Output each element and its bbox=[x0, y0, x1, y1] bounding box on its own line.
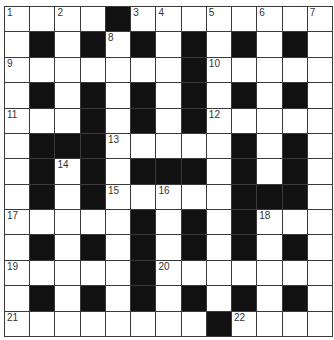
crossword-cell[interactable]: 21 bbox=[5, 312, 29, 336]
crossword-cell[interactable] bbox=[182, 185, 206, 209]
crossword-cell[interactable] bbox=[81, 210, 105, 234]
crossword-cell[interactable]: 18 bbox=[257, 210, 281, 234]
crossword-cell[interactable] bbox=[106, 83, 130, 107]
crossword-cell[interactable] bbox=[308, 185, 332, 209]
crossword-cell[interactable] bbox=[257, 109, 281, 133]
crossword-cell[interactable] bbox=[283, 210, 307, 234]
crossword-cell[interactable] bbox=[207, 83, 231, 107]
crossword-cell[interactable]: 10 bbox=[207, 58, 231, 82]
crossword-cell[interactable] bbox=[283, 312, 307, 336]
crossword-cell[interactable] bbox=[30, 109, 54, 133]
crossword-cell[interactable] bbox=[30, 312, 54, 336]
crossword-cell[interactable] bbox=[207, 185, 231, 209]
crossword-cell[interactable] bbox=[182, 312, 206, 336]
crossword-cell[interactable]: 7 bbox=[308, 7, 332, 31]
crossword-cell[interactable] bbox=[156, 134, 180, 158]
crossword-cell[interactable] bbox=[232, 58, 256, 82]
crossword-cell[interactable] bbox=[207, 286, 231, 310]
crossword-cell[interactable] bbox=[5, 83, 29, 107]
crossword-cell[interactable] bbox=[55, 32, 79, 56]
crossword-cell[interactable] bbox=[55, 312, 79, 336]
crossword-cell[interactable] bbox=[106, 235, 130, 259]
crossword-cell[interactable] bbox=[156, 235, 180, 259]
crossword-cell[interactable] bbox=[30, 261, 54, 285]
crossword-cell[interactable] bbox=[156, 32, 180, 56]
crossword-cell[interactable]: 19 bbox=[5, 261, 29, 285]
crossword-cell[interactable] bbox=[207, 210, 231, 234]
crossword-cell[interactable] bbox=[106, 312, 130, 336]
crossword-cell[interactable] bbox=[257, 134, 281, 158]
crossword-cell[interactable]: 3 bbox=[131, 7, 155, 31]
crossword-cell[interactable] bbox=[106, 261, 130, 285]
crossword-cell[interactable] bbox=[81, 58, 105, 82]
crossword-cell[interactable] bbox=[55, 261, 79, 285]
crossword-cell[interactable] bbox=[5, 286, 29, 310]
crossword-cell[interactable] bbox=[283, 58, 307, 82]
crossword-cell[interactable] bbox=[106, 109, 130, 133]
crossword-cell[interactable] bbox=[283, 261, 307, 285]
crossword-cell[interactable] bbox=[308, 58, 332, 82]
crossword-cell[interactable] bbox=[55, 235, 79, 259]
crossword-cell[interactable] bbox=[308, 83, 332, 107]
crossword-cell[interactable] bbox=[5, 235, 29, 259]
crossword-cell[interactable] bbox=[182, 261, 206, 285]
crossword-cell[interactable] bbox=[55, 83, 79, 107]
crossword-cell[interactable] bbox=[106, 159, 130, 183]
crossword-cell[interactable] bbox=[30, 210, 54, 234]
crossword-cell[interactable] bbox=[81, 7, 105, 31]
crossword-cell[interactable]: 11 bbox=[5, 109, 29, 133]
crossword-cell[interactable]: 13 bbox=[106, 134, 130, 158]
crossword-cell[interactable] bbox=[106, 210, 130, 234]
crossword-cell[interactable] bbox=[30, 7, 54, 31]
crossword-cell[interactable]: 20 bbox=[156, 261, 180, 285]
crossword-cell[interactable] bbox=[55, 58, 79, 82]
crossword-cell[interactable]: 4 bbox=[156, 7, 180, 31]
crossword-cell[interactable] bbox=[257, 312, 281, 336]
crossword-cell[interactable] bbox=[283, 7, 307, 31]
crossword-cell[interactable] bbox=[207, 261, 231, 285]
crossword-cell[interactable] bbox=[156, 83, 180, 107]
crossword-cell[interactable] bbox=[308, 109, 332, 133]
crossword-cell[interactable]: 8 bbox=[106, 32, 130, 56]
crossword-cell[interactable] bbox=[81, 261, 105, 285]
crossword-cell[interactable] bbox=[5, 185, 29, 209]
crossword-cell[interactable] bbox=[55, 185, 79, 209]
crossword-cell[interactable] bbox=[308, 159, 332, 183]
crossword-cell[interactable]: 15 bbox=[106, 185, 130, 209]
crossword-cell[interactable] bbox=[232, 109, 256, 133]
crossword-cell[interactable] bbox=[106, 58, 130, 82]
crossword-cell[interactable] bbox=[257, 58, 281, 82]
crossword-cell[interactable]: 14 bbox=[55, 159, 79, 183]
crossword-cell[interactable] bbox=[131, 185, 155, 209]
crossword-cell[interactable] bbox=[308, 210, 332, 234]
crossword-cell[interactable] bbox=[5, 134, 29, 158]
crossword-cell[interactable]: 2 bbox=[55, 7, 79, 31]
crossword-cell[interactable] bbox=[182, 134, 206, 158]
crossword-cell[interactable] bbox=[232, 261, 256, 285]
crossword-cell[interactable] bbox=[156, 109, 180, 133]
crossword-cell[interactable] bbox=[308, 134, 332, 158]
crossword-cell[interactable] bbox=[308, 312, 332, 336]
crossword-cell[interactable] bbox=[283, 109, 307, 133]
crossword-cell[interactable] bbox=[308, 286, 332, 310]
crossword-cell[interactable] bbox=[156, 58, 180, 82]
crossword-cell[interactable]: 12 bbox=[207, 109, 231, 133]
crossword-cell[interactable] bbox=[81, 312, 105, 336]
crossword-cell[interactable] bbox=[156, 286, 180, 310]
crossword-cell[interactable] bbox=[308, 261, 332, 285]
crossword-cell[interactable] bbox=[207, 159, 231, 183]
crossword-cell[interactable] bbox=[207, 32, 231, 56]
crossword-cell[interactable] bbox=[156, 210, 180, 234]
crossword-cell[interactable] bbox=[257, 261, 281, 285]
crossword-cell[interactable] bbox=[257, 32, 281, 56]
crossword-cell[interactable] bbox=[131, 134, 155, 158]
crossword-cell[interactable] bbox=[257, 83, 281, 107]
crossword-cell[interactable] bbox=[207, 235, 231, 259]
crossword-cell[interactable] bbox=[55, 210, 79, 234]
crossword-cell[interactable] bbox=[55, 109, 79, 133]
crossword-cell[interactable] bbox=[5, 159, 29, 183]
crossword-cell[interactable] bbox=[232, 7, 256, 31]
crossword-cell[interactable]: 17 bbox=[5, 210, 29, 234]
crossword-cell[interactable] bbox=[308, 235, 332, 259]
crossword-cell[interactable]: 16 bbox=[156, 185, 180, 209]
